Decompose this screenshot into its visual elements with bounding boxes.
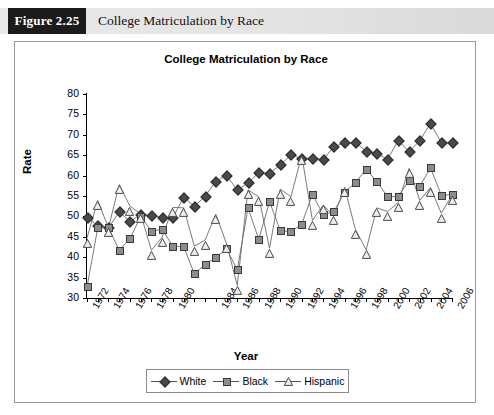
y-tick-label: 60 [57, 169, 79, 181]
data-point-hispanic [254, 192, 263, 201]
y-axis-title: Rate [21, 149, 33, 174]
data-point-hispanic [437, 209, 446, 218]
data-point-hispanic [115, 180, 124, 189]
data-point-black [191, 270, 199, 278]
y-tick-label: 35 [57, 271, 79, 283]
data-point-black [234, 266, 242, 274]
legend-item-black[interactable]: Black [213, 375, 268, 387]
x-tick-mark [366, 298, 367, 302]
data-point-hispanic [426, 183, 435, 192]
x-tick-mark [173, 298, 174, 302]
x-tick-mark [205, 298, 206, 302]
x-tick-mark [237, 298, 238, 302]
x-tick-label: 2006 [455, 286, 476, 311]
data-point-black [416, 183, 424, 191]
square-marker-icon [213, 375, 239, 387]
triangle-marker-icon [275, 375, 301, 387]
y-tick-label: 70 [57, 128, 79, 140]
x-tick-mark [259, 298, 260, 302]
x-tick-mark [431, 298, 432, 302]
data-point-hispanic [394, 198, 403, 207]
x-tick-mark [388, 298, 389, 302]
data-point-black [94, 224, 102, 232]
x-tick-mark [130, 298, 131, 302]
x-tick-mark [194, 298, 195, 302]
data-point-hispanic [297, 151, 306, 160]
data-point-black [309, 191, 317, 199]
data-point-black [169, 243, 177, 251]
data-point-hispanic [158, 233, 167, 242]
data-point-black [266, 198, 274, 206]
data-point-hispanic [190, 242, 199, 251]
x-tick-mark [323, 298, 324, 302]
data-point-hispanic [276, 185, 285, 194]
data-point-hispanic [168, 203, 177, 212]
series-line-black [87, 168, 452, 287]
data-point-black [148, 228, 156, 236]
x-tick-mark [87, 298, 88, 302]
data-point-hispanic [448, 191, 457, 200]
data-point-hispanic [415, 196, 424, 205]
figure-caption: College Matriculation by Race [98, 8, 264, 34]
y-tick-label: 50 [57, 209, 79, 221]
data-point-hispanic [104, 223, 113, 232]
data-point-black [427, 164, 435, 172]
data-point-black [255, 236, 263, 244]
legend-item-hispanic[interactable]: Hispanic [275, 375, 344, 387]
data-point-hispanic [93, 196, 102, 205]
data-point-hispanic [372, 203, 381, 212]
data-point-hispanic [211, 210, 220, 219]
x-tick-mark [280, 298, 281, 302]
data-point-black [202, 261, 210, 269]
data-point-hispanic [222, 239, 231, 248]
legend-label: Hispanic [304, 375, 344, 387]
data-point-hispanic [319, 200, 328, 209]
legend-label: White [180, 375, 207, 387]
legend-label: Black [242, 375, 268, 387]
data-point-black [84, 283, 92, 291]
y-tick-label: 80 [57, 87, 79, 99]
data-point-black [298, 221, 306, 229]
data-point-hispanic [179, 203, 188, 212]
data-point-black [277, 227, 285, 235]
y-tick-label: 65 [57, 148, 79, 160]
y-tick-label: 55 [57, 189, 79, 201]
x-tick-mark [302, 298, 303, 302]
data-point-hispanic [308, 216, 317, 225]
data-point-hispanic [125, 202, 134, 211]
data-point-hispanic [340, 183, 349, 192]
data-point-black [245, 204, 253, 212]
chart-legend: WhiteBlackHispanic [146, 369, 349, 393]
chart-title: College Matriculation by Race [15, 53, 477, 65]
data-point-hispanic [329, 211, 338, 220]
data-point-hispanic [362, 245, 371, 254]
y-tick-label: 30 [57, 291, 79, 303]
data-point-hispanic [83, 234, 92, 243]
y-tick-label: 75 [57, 107, 79, 119]
plot-area [87, 94, 452, 298]
data-point-black [212, 254, 220, 262]
data-point-black [287, 228, 295, 236]
data-point-hispanic [405, 164, 414, 173]
data-point-black [126, 235, 134, 243]
x-tick-mark [452, 298, 453, 302]
data-point-black [384, 193, 392, 201]
x-tick-mark [216, 298, 217, 302]
x-axis-title: Year [15, 350, 477, 362]
data-point-black [438, 192, 446, 200]
y-tick-label: 40 [57, 250, 79, 262]
x-tick-mark [151, 298, 152, 302]
legend-item-white[interactable]: White [151, 375, 207, 387]
x-tick-mark [409, 298, 410, 302]
data-point-black [406, 177, 414, 185]
data-point-hispanic [265, 244, 274, 253]
data-point-hispanic [147, 246, 156, 255]
data-point-hispanic [244, 185, 253, 194]
data-point-black [116, 247, 124, 255]
data-point-hispanic [201, 236, 210, 245]
data-point-hispanic [383, 207, 392, 216]
data-point-black [352, 179, 360, 187]
diamond-marker-icon [151, 375, 177, 387]
x-tick-mark [108, 298, 109, 302]
chart-container: College Matriculation by Race Rate Year … [14, 41, 476, 403]
